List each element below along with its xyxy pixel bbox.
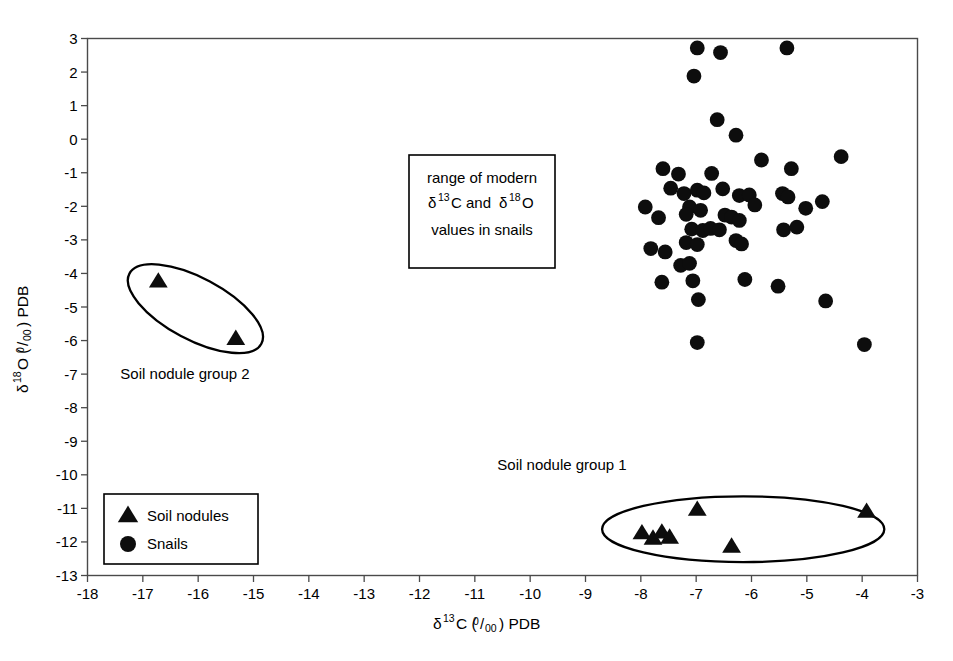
snail-data-point [712,222,727,237]
annotation-line-1: range of modern [427,169,537,186]
snail-data-point [690,40,705,55]
annotation-delta-1: δ [428,194,436,211]
soil-nodule-group-1-label: Soil nodule group 1 [497,456,626,473]
x-tick-label: -17 [132,585,154,602]
snail-data-point [747,198,762,213]
snail-data-point [754,153,769,168]
x-tick-label: -5 [800,585,813,602]
y-tick-label: -8 [64,399,77,416]
x-title-delta: δ [433,615,442,632]
snail-data-point [690,335,705,350]
snail-data-point [834,149,849,164]
y-tick-label: -9 [64,433,77,450]
x-tick-label: -13 [353,585,375,602]
snail-data-point [780,40,795,55]
soil-nodule-group-2-label: Soil nodule group 2 [120,365,249,382]
svg-text:00: 00 [485,622,497,634]
snail-data-point [687,69,702,84]
y-title-units: ) PDB [14,286,31,327]
y-tick-label: 0 [69,131,77,148]
plot-canvas: -18-17-16-15-14-13-12-11-10-9-8-7-6-5-4-… [0,0,953,661]
x-tick-label: -9 [579,585,592,602]
snail-data-point [771,279,786,294]
legend-item-label: Snails [147,535,188,552]
x-tick-label: -15 [243,585,265,602]
x-tick-label: -4 [855,585,868,602]
snail-data-point [857,337,872,352]
y-tick-label: -12 [56,533,78,550]
x-tick-label: -7 [689,585,702,602]
svg-text:0: 0 [473,615,479,627]
group-2-label-text: Soil nodule group 2 [120,365,249,382]
snail-data-point [818,294,833,309]
annotation-sup-18: 18 [509,191,521,203]
snail-data-point [729,128,744,143]
snail-data-point [715,181,730,196]
snail-data-point [690,237,705,252]
snail-data-point [789,220,804,235]
y-tick-label: -1 [64,164,77,181]
annotation-sup-13: 13 [438,191,450,203]
snail-data-point [737,272,752,287]
svg-text:0: 0 [14,347,26,353]
y-tick-label: -3 [64,231,77,248]
annotation-delta-2: δ [499,194,507,211]
y-title-superscript: 18 [11,371,23,383]
x-title-superscript: 13 [443,612,455,624]
snail-data-point [693,203,708,218]
snail-data-point [776,222,791,237]
snail-data-point [658,245,673,260]
y-tick-label: -5 [64,299,77,316]
snail-data-point [654,275,669,290]
svg-text:00: 00 [21,329,33,341]
snail-data-point [651,210,666,225]
y-tick-label: 2 [69,64,77,81]
snail-data-point [798,201,813,216]
annotation-c-and: C and [451,194,491,211]
y-tick-label: -4 [64,265,77,282]
snail-data-point [734,237,749,252]
snail-data-point [691,292,706,307]
snail-data-point [713,45,728,60]
x-tick-label: -8 [634,585,647,602]
y-tick-label: 3 [69,30,77,47]
annotation-o: O [522,194,534,211]
x-tick-label: -10 [519,585,541,602]
snail-data-point [656,161,671,176]
y-title-delta: δ [14,384,31,393]
snail-data-point [732,213,747,228]
y-tick-label: -2 [64,198,77,215]
legend-box-outline [104,494,258,564]
snail-data-point [781,190,796,205]
y-tick-label: 1 [69,97,77,114]
snail-data-point [677,186,692,201]
annotation-line-3: values in snails [431,221,533,238]
snail-data-point [679,207,694,222]
x-tick-label: -16 [187,585,209,602]
group-1-label-text: Soil nodule group 1 [497,456,626,473]
y-tick-label: -10 [56,466,78,483]
snail-data-point [704,166,719,181]
snail-data-point [638,200,653,215]
snail-data-point [671,167,686,182]
x-tick-label: -14 [298,585,320,602]
snail-data-point [784,161,799,176]
snail-data-point [815,194,830,209]
snail-data-point [710,112,725,127]
modern-range-annotation: range of modernδ13C and δ18Ovalues in sn… [409,155,555,268]
legend-circle-icon [120,536,136,552]
legend: Soil nodulesSnails [104,494,258,564]
x-title-units: ) PDB [499,615,540,632]
legend-item-label: Soil nodules [147,507,229,524]
x-tick-label: -11 [465,585,486,602]
y-tick-label: -6 [64,332,77,349]
y-tick-label: -11 [57,500,78,517]
x-tick-label: -12 [409,585,431,602]
y-tick-label: -7 [64,366,77,383]
x-tick-label: -6 [745,585,758,602]
x-tick-label: -3 [911,585,924,602]
snail-data-point [643,241,658,256]
y-tick-label: -13 [56,567,78,584]
snail-data-point [682,256,697,271]
snail-data-point [697,185,712,200]
